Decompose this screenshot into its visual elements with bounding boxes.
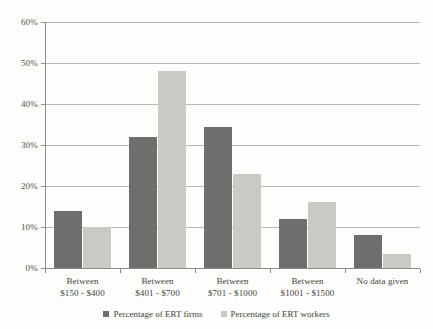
bar-workers xyxy=(158,71,186,268)
y-tick-mark xyxy=(41,104,45,105)
bar-workers xyxy=(383,254,411,268)
bar-chart: 0% 10% 20% 30% 40% 50% 60% xyxy=(0,0,433,329)
bar-group xyxy=(270,22,345,268)
x-category-label: No data given xyxy=(338,276,428,288)
y-tick-label: 60% xyxy=(0,17,38,27)
bar-firms xyxy=(204,127,232,268)
y-tick-mark xyxy=(41,63,45,64)
y-tick-mark xyxy=(41,227,45,228)
y-tick-mark xyxy=(41,22,45,23)
y-tick-label: 30% xyxy=(0,140,38,150)
bar-firms xyxy=(354,235,382,268)
x-category-line1: Between xyxy=(141,276,173,286)
x-category-line1: Between xyxy=(216,276,248,286)
x-tick-mark xyxy=(270,269,271,273)
y-tick-mark xyxy=(41,186,45,187)
legend-swatch-icon xyxy=(221,311,227,317)
x-category-line2: $1001 - $1500 xyxy=(263,288,353,300)
bar-firms xyxy=(54,211,82,268)
x-tick-mark xyxy=(120,269,121,273)
x-tick-mark xyxy=(345,269,346,273)
y-axis-labels: 0% 10% 20% 30% 40% 50% 60% xyxy=(0,0,41,329)
x-category-line1: Between xyxy=(66,276,98,286)
y-tick-label: 40% xyxy=(0,99,38,109)
bar-group xyxy=(195,22,270,268)
bar-workers xyxy=(308,202,336,268)
bar-group xyxy=(345,22,420,268)
bar-group xyxy=(120,22,195,268)
legend-swatch-icon xyxy=(103,311,109,317)
bar-workers xyxy=(83,227,111,268)
legend-label: Percentage of ERT workers xyxy=(231,309,330,319)
bar-workers xyxy=(233,174,261,268)
x-category-line1: Between xyxy=(291,276,323,286)
x-axis-line xyxy=(45,268,420,269)
x-tick-mark xyxy=(195,269,196,273)
x-category-line1: No data given xyxy=(357,276,409,286)
bars-layer xyxy=(45,22,420,268)
x-tick-mark xyxy=(420,269,421,273)
y-tick-label: 20% xyxy=(0,181,38,191)
bar-firms xyxy=(129,137,157,268)
y-tick-label: 0% xyxy=(0,263,38,273)
y-tick-label: 10% xyxy=(0,222,38,232)
legend-item-firms: Percentage of ERT firms xyxy=(103,309,202,319)
bar-group xyxy=(45,22,120,268)
legend-item-workers: Percentage of ERT workers xyxy=(221,309,330,319)
x-tick-mark xyxy=(45,269,46,273)
y-tick-mark xyxy=(41,145,45,146)
chart-legend: Percentage of ERT firms Percentage of ER… xyxy=(0,309,433,319)
y-tick-label: 50% xyxy=(0,58,38,68)
legend-label: Percentage of ERT firms xyxy=(113,309,202,319)
bar-firms xyxy=(279,219,307,268)
